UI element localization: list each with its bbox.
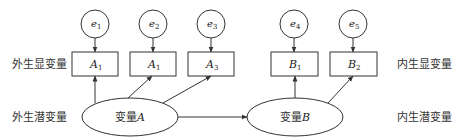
observed-node-b2: B2 xyxy=(330,52,377,76)
arrow-a-a2 xyxy=(128,76,152,98)
svg-text:变量A: 变量A xyxy=(115,110,145,124)
label-exogenous-observed: 外生显变量 xyxy=(12,57,67,71)
error-node-e2: e2 xyxy=(139,10,167,38)
error-node-e4: e4 xyxy=(280,10,308,38)
observed-node-a2: A1 xyxy=(130,52,176,76)
latent-node-b: 变量B xyxy=(247,98,343,136)
error-node-e5: e5 xyxy=(339,10,367,38)
observed-node-a1: A1 xyxy=(72,52,118,76)
sem-path-diagram: 外生显变量 外生潜变量 内生显变量 内生潜变量 e1 e2 e3 e4 e5 A… xyxy=(0,0,453,138)
svg-text:变量B: 变量B xyxy=(280,110,310,124)
error-node-e1: e1 xyxy=(81,10,109,38)
latent-node-a: 变量A xyxy=(82,98,178,136)
arrow-b-b2 xyxy=(328,76,353,103)
error-node-e3: e3 xyxy=(197,10,225,38)
label-endogenous-latent: 内生潜变量 xyxy=(397,110,452,124)
label-endogenous-observed: 内生显变量 xyxy=(397,57,452,71)
observed-node-b1: B1 xyxy=(271,52,318,76)
label-exogenous-latent: 外生潜变量 xyxy=(12,110,67,124)
arrow-a-a3 xyxy=(163,76,211,103)
observed-node-a3: A3 xyxy=(188,52,234,76)
